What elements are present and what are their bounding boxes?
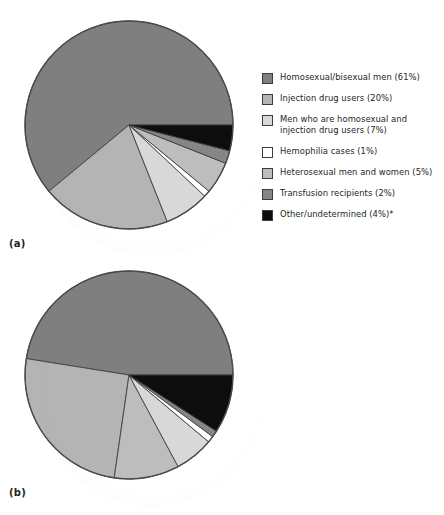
figure-panel-b: (b) Homosexual/bisexual men (47%) Inject… [0,258,444,515]
legend-swatch [262,73,273,84]
legend-item[interactable]: Men who are homosexual and injection dru… [262,114,440,137]
legend-label: Homosexual/bisexual men (61%) [280,72,420,83]
legend-label: Transfusion recipients (2%) [280,188,395,199]
legend-swatch [262,147,273,158]
pie-chart-a [22,18,236,232]
pie-svg-b [22,268,236,482]
legend-swatch [262,210,273,221]
legend-label: Injection drug users (20%) [280,93,392,104]
legend-item[interactable]: Transfusion recipients (2%) [262,188,440,200]
legend-label: Other/undetermined (4%)* [280,209,394,220]
figure-panel-a: (a) Homosexual/bisexual men (61%) Inject… [0,0,444,262]
legend-item[interactable]: Other/undetermined (4%)* [262,209,440,221]
legend-label: Hemophilia cases (1%) [280,146,377,157]
legend-item[interactable]: Homosexual/bisexual men (61%) [262,72,440,84]
legend-item[interactable]: Injection drug users (20%) [262,93,440,105]
legend-label: Men who are homosexual and injection dru… [280,114,438,137]
legend-swatch [262,168,273,179]
pie-svg-a [22,18,236,232]
pie-slice[interactable] [26,271,233,375]
legend-swatch [262,189,273,200]
legend-item[interactable]: Hemophilia cases (1%) [262,146,440,158]
legend-a: Homosexual/bisexual men (61%) Injection … [262,72,440,230]
legend-label: Heterosexual men and women (5%) [280,167,432,178]
pie-slice[interactable] [25,359,129,478]
legend-swatch [262,115,273,126]
panel-label-b: (b) [9,487,26,498]
panel-label-a: (a) [9,238,26,249]
legend-swatch [262,94,273,105]
legend-item[interactable]: Heterosexual men and women (5%) [262,167,440,179]
pie-chart-b [22,268,236,482]
